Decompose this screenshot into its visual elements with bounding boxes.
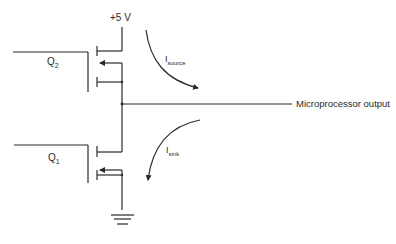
q2-transistor xyxy=(13,27,123,92)
circuit-diagram: +5 V Q2 Microprocessor output xyxy=(0,0,396,244)
q1-transistor xyxy=(14,145,123,210)
output-label: Microprocessor output xyxy=(296,98,390,109)
sink-current-label: Isink xyxy=(166,145,180,157)
ground-icon xyxy=(111,215,134,224)
q2-label: Q2 xyxy=(47,56,59,69)
sink-current-arrow-icon xyxy=(148,120,200,180)
supply-voltage-label: +5 V xyxy=(110,12,131,23)
source-current-label: Isource xyxy=(165,54,186,66)
source-current-arrow-icon xyxy=(146,30,198,88)
q1-label: Q1 xyxy=(48,152,60,165)
